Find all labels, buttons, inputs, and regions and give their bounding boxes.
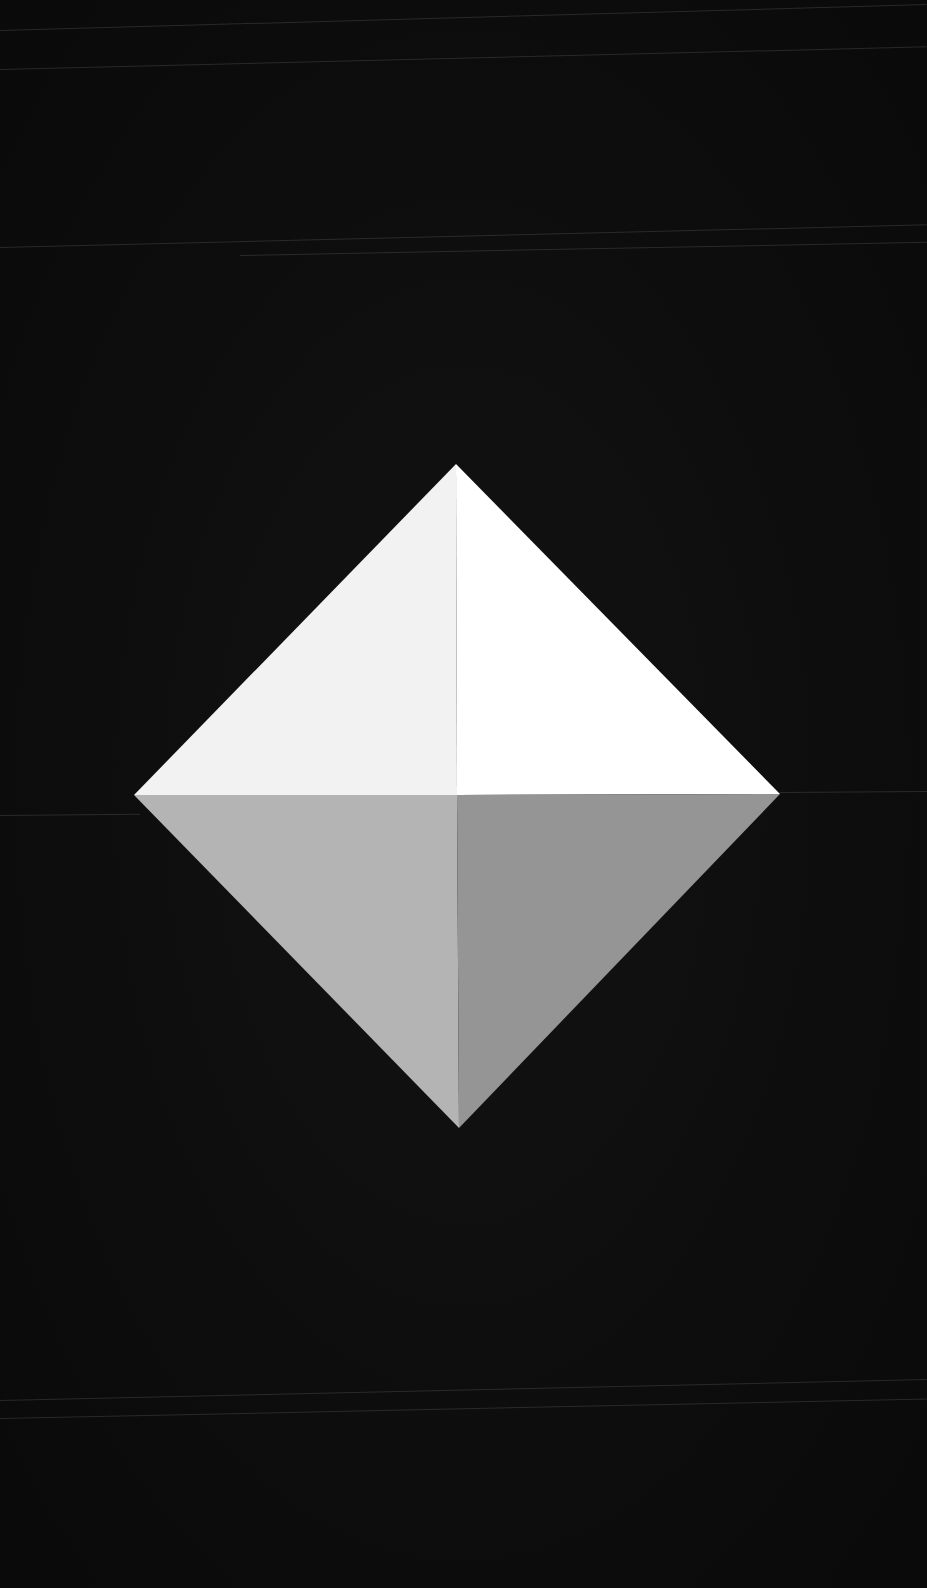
- diamond-face-top-right: [456, 464, 780, 795]
- diamond-face-top-left: [134, 464, 457, 795]
- diamond-face-bottom-right: [457, 794, 780, 1128]
- diamond-graphic: [0, 0, 927, 1588]
- artwork-canvas: [0, 0, 927, 1588]
- diamond-face-bottom-left: [134, 795, 459, 1128]
